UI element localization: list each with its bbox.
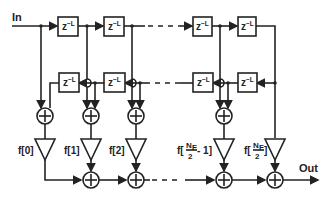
pre-adder-3 [216,108,232,124]
top-delay-2: z−L [104,17,124,36]
bottom-delay-2: z−L [104,73,125,92]
bottom-delay-3: z−L [193,73,213,92]
bottom-delay-1: z−L [59,73,79,92]
multiplier-4 [265,139,285,160]
tap-label-0: f[0] [18,145,34,156]
multiplier-3 [214,139,234,160]
top-delay-1: z−L [58,17,78,36]
pre-adder-2 [128,108,144,124]
input-label: In [12,11,22,23]
svg-text:f[: f[ [177,145,184,156]
output-label: Out [299,162,318,174]
svg-text:2: 2 [255,152,260,161]
bottom-delay-4: z−L [238,73,257,92]
tap-label-3: f[ N F 2 - 1] [177,141,212,161]
multiplier-1 [81,139,101,160]
svg-text:- 1]: - 1] [197,145,212,156]
pre-adder-1 [83,108,99,124]
multiplier-0 [35,139,55,160]
top-delay-line [12,24,275,83]
multiplier-2 [126,139,146,160]
tap-label-1: f[1] [64,145,80,156]
pre-adders [37,108,232,139]
tap-label-4: f[ N F 2 ] [244,141,267,161]
top-delay-4: z−L [238,17,256,36]
pre-adder-0 [37,108,53,124]
out-adder-2 [128,172,144,188]
svg-text:f[: f[ [244,145,251,156]
tap-label-2: f[2] [109,145,125,156]
out-adder-1 [83,172,99,188]
svg-text:]: ] [264,145,267,156]
out-adder-3 [216,172,232,188]
top-delay-3: z−L [193,17,212,36]
output-chain [45,160,318,188]
out-adder-4 [267,172,283,188]
fir-diagram: In z−L z−L z−L z−L z−L z−L z−L z−L [0,0,330,198]
svg-text:2: 2 [188,152,193,161]
